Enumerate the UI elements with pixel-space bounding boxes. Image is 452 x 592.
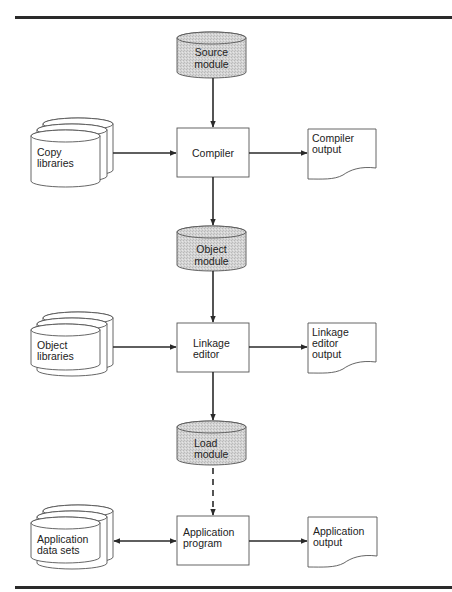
copy-libraries-stack: Copy libraries [31, 118, 113, 187]
application-output-document: Application output [308, 517, 377, 567]
application-data-sets-stack: Application data sets [31, 505, 113, 569]
application-data-sets-label-2: data sets [37, 544, 80, 556]
load-module-label-2: module [194, 448, 229, 460]
source-module-label-1: Source [195, 46, 228, 58]
object-module-cylinder: Object module [177, 226, 246, 271]
copy-libraries-label-2: libraries [37, 157, 74, 169]
application-program-box: Application program [177, 516, 249, 565]
object-module-label-2: module [194, 255, 229, 267]
linkage-editor-label-2: editor [193, 348, 220, 360]
program-preparation-diagram: Source module Copy libraries Compiler Co… [0, 0, 452, 592]
source-module-cylinder: Source module [177, 32, 246, 78]
object-libraries-stack: Object libraries [31, 312, 113, 376]
compiler-label: Compiler [192, 147, 235, 159]
top-rule [15, 16, 452, 19]
object-libraries-label-2: libraries [37, 350, 74, 362]
load-module-cylinder: Load module [177, 421, 246, 465]
compiler-box: Compiler [177, 128, 249, 177]
bottom-rule [15, 586, 452, 589]
source-module-label-2: module [194, 58, 229, 70]
compiler-output-document: Compiler output [308, 129, 376, 179]
application-program-label-2: program [183, 537, 222, 549]
application-output-label-2: output [313, 536, 342, 548]
linkage-editor-output-label-3: output [312, 348, 341, 360]
linkage-editor-box: Linkage editor [177, 323, 249, 372]
linkage-editor-output-document: Linkage editor output [308, 323, 376, 373]
object-module-label-1: Object [196, 243, 226, 255]
compiler-output-label-2: output [312, 143, 341, 155]
